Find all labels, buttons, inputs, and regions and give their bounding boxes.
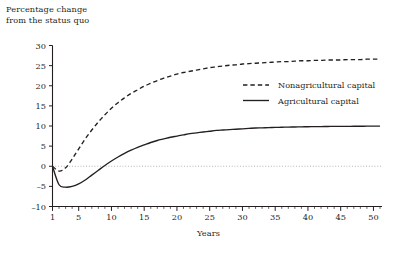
x-tick-label: 45 [335, 212, 345, 222]
series-line-nonagricultural-capital [53, 59, 381, 171]
chart-container: Percentage change from the status quo –1… [0, 0, 393, 254]
y-tick-label: –10 [31, 202, 46, 212]
y-tick-label: 20 [36, 81, 46, 91]
x-tick-label: 15 [139, 212, 149, 222]
x-tick-label: 40 [303, 212, 313, 222]
x-tick-label: 5 [76, 212, 81, 222]
x-tick-label: 1 [50, 212, 55, 222]
x-tick-label: 20 [172, 212, 182, 222]
y-tick-label: 5 [41, 141, 46, 151]
chart-legend: Nonagricultural capitalAgricultural capi… [243, 80, 376, 106]
legend-label: Agricultural capital [277, 96, 359, 106]
chart-plot: –10–505101520253015101520253035404550 No… [0, 0, 393, 254]
y-tick-label: 30 [36, 41, 46, 51]
y-tick-label: 25 [36, 61, 46, 71]
x-axis-title-label: Years [197, 228, 220, 238]
legend-label: Nonagricultural capital [278, 80, 376, 90]
series-line-agricultural-capital [53, 126, 381, 187]
x-tick-label: 25 [204, 212, 214, 222]
y-tick-label: 15 [36, 101, 46, 111]
y-tick-label: 10 [36, 121, 46, 131]
tick-marks-layer [49, 46, 380, 211]
x-axis-title: Years [0, 228, 393, 238]
x-tick-label: 50 [368, 212, 378, 222]
x-tick-label: 10 [106, 212, 116, 222]
x-tick-label: 30 [237, 212, 247, 222]
data-series-layer [53, 59, 381, 187]
y-tick-label: –5 [37, 181, 46, 191]
y-tick-label: 0 [41, 161, 46, 171]
x-tick-label: 35 [270, 212, 280, 222]
